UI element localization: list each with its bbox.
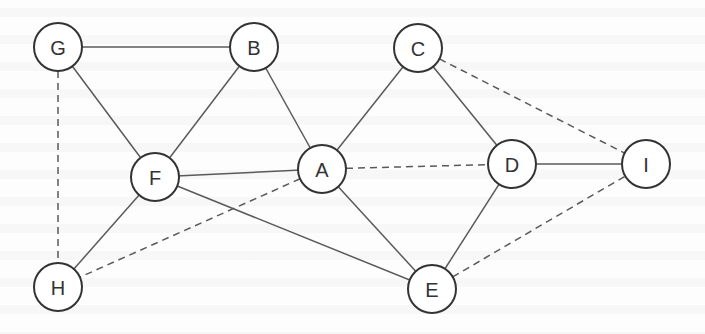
node-label: C: [411, 38, 425, 60]
node-label: G: [50, 37, 66, 59]
node-f: F: [131, 153, 179, 201]
graph-svg: GBCFADIHE: [0, 0, 705, 334]
edge-e-i: [432, 164, 646, 289]
node-label: F: [149, 167, 161, 189]
node-i: I: [622, 140, 670, 188]
node-label: E: [425, 279, 438, 301]
node-b: B: [230, 23, 278, 71]
node-a: A: [298, 145, 346, 193]
node-c: C: [394, 24, 442, 72]
edge-f-a: [155, 169, 322, 177]
node-h: H: [34, 263, 82, 311]
node-g: G: [34, 23, 82, 71]
node-label: H: [51, 277, 65, 299]
edge-c-i: [418, 48, 646, 164]
node-label: A: [315, 159, 329, 181]
node-label: B: [247, 37, 260, 59]
node-d: D: [488, 140, 536, 188]
node-label: D: [505, 154, 519, 176]
edge-f-e: [155, 177, 432, 289]
node-e: E: [408, 265, 456, 313]
node-label: I: [643, 154, 649, 176]
edge-a-d: [322, 164, 512, 169]
graph-diagram: GBCFADIHE: [0, 0, 705, 334]
